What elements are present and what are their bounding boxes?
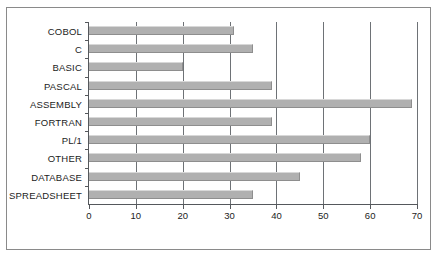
bar-pascal bbox=[89, 81, 272, 90]
bar-row: PASCAL bbox=[89, 77, 417, 95]
category-label-database: DATABASE bbox=[31, 171, 82, 182]
y-axis-tick bbox=[85, 40, 89, 41]
x-axis-tick-label: 10 bbox=[131, 210, 142, 221]
x-axis-tick-40 bbox=[276, 204, 277, 209]
x-axis-tick-50 bbox=[323, 204, 324, 209]
bar-row: SPREADSHEET bbox=[89, 186, 417, 204]
plot-area: 010203040506070COBOLCBASICPASCALASSEMBLY… bbox=[88, 22, 417, 205]
category-label-pl-1: PL/1 bbox=[62, 135, 82, 146]
x-axis-tick-20 bbox=[183, 204, 184, 209]
category-label-pascal: PASCAL bbox=[44, 80, 82, 91]
bar-other bbox=[89, 153, 361, 162]
x-axis-tick-0 bbox=[89, 204, 90, 209]
category-label-c: C bbox=[75, 44, 82, 55]
bar-row: COBOL bbox=[89, 22, 417, 40]
bar-spreadsheet bbox=[89, 190, 253, 199]
category-label-other: OTHER bbox=[48, 153, 82, 164]
y-axis-tick bbox=[85, 58, 89, 59]
y-axis-tick bbox=[85, 149, 89, 150]
category-label-cobol: COBOL bbox=[48, 26, 82, 37]
x-axis-tick-label: 0 bbox=[86, 210, 91, 221]
category-label-spreadsheet: SPREADSHEET bbox=[9, 189, 82, 200]
x-axis-tick-60 bbox=[370, 204, 371, 209]
bar-assembly bbox=[89, 99, 412, 108]
x-axis-tick-label: 60 bbox=[365, 210, 376, 221]
bar-basic bbox=[89, 62, 183, 71]
x-axis-tick-label: 70 bbox=[412, 210, 423, 221]
y-axis-tick bbox=[85, 186, 89, 187]
x-axis-tick-label: 30 bbox=[224, 210, 235, 221]
x-axis-tick-30 bbox=[230, 204, 231, 209]
bar-row: C bbox=[89, 40, 417, 58]
y-axis-tick bbox=[85, 95, 89, 96]
y-axis-tick bbox=[85, 22, 89, 23]
bar-row: PL/1 bbox=[89, 131, 417, 149]
x-axis-tick-10 bbox=[136, 204, 137, 209]
y-axis-tick bbox=[85, 77, 89, 78]
chart-frame: 010203040506070COBOLCBASICPASCALASSEMBLY… bbox=[6, 7, 431, 250]
bar-row: DATABASE bbox=[89, 168, 417, 186]
bar-pl-1 bbox=[89, 135, 370, 144]
bar-fortran bbox=[89, 117, 272, 126]
bar-database bbox=[89, 172, 300, 181]
bar-cobol bbox=[89, 26, 234, 35]
category-label-fortran: FORTRAN bbox=[35, 117, 82, 128]
x-axis-tick-label: 50 bbox=[318, 210, 329, 221]
bar-row: ASSEMBLY bbox=[89, 95, 417, 113]
category-label-basic: BASIC bbox=[52, 62, 82, 73]
category-label-assembly: ASSEMBLY bbox=[30, 98, 82, 109]
gridline-x-70 bbox=[417, 22, 418, 204]
bar-row: OTHER bbox=[89, 149, 417, 167]
y-axis-tick bbox=[85, 113, 89, 114]
bar-c bbox=[89, 44, 253, 53]
y-axis-tick bbox=[85, 131, 89, 132]
x-axis-tick-70 bbox=[417, 204, 418, 209]
y-axis-tick bbox=[85, 168, 89, 169]
bar-row: FORTRAN bbox=[89, 113, 417, 131]
bar-row: BASIC bbox=[89, 58, 417, 76]
x-axis-tick-label: 20 bbox=[177, 210, 188, 221]
x-axis-tick-label: 40 bbox=[271, 210, 282, 221]
